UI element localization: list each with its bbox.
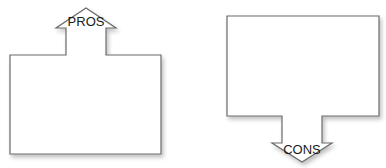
pros-up-arrow-box — [10, 8, 161, 154]
pros-label: PROS — [68, 14, 105, 29]
pros-cons-diagram: PROS CONS — [0, 0, 386, 168]
cons-down-arrow-box — [227, 16, 379, 162]
cons-label: CONS — [283, 142, 321, 157]
cons-callout: CONS — [227, 16, 379, 162]
pros-callout: PROS — [10, 8, 161, 154]
